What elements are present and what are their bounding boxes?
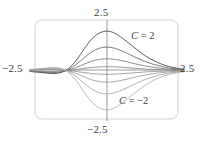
x-axis-left-tick-label: −2.5: [2, 62, 23, 74]
annotation-c-positive: C = 2: [131, 30, 154, 41]
y-axis-top-tick-label: 2.5: [94, 6, 108, 18]
annotation-c-negative-value: = −2: [126, 95, 148, 106]
y-axis-bottom-tick-label: −2.5: [87, 123, 108, 135]
figure-container: 2.5 −2.5 −2.5 2.5 C = 2 C = −2: [0, 0, 205, 141]
plot-canvas: [0, 0, 205, 141]
x-axis-right-tick-label: 2.5: [180, 62, 194, 74]
annotation-c-positive-symbol: C: [131, 30, 138, 41]
annotation-c-positive-value: = 2: [138, 30, 154, 41]
annotation-c-negative-symbol: C: [119, 95, 126, 106]
annotation-c-negative: C = −2: [119, 95, 148, 106]
